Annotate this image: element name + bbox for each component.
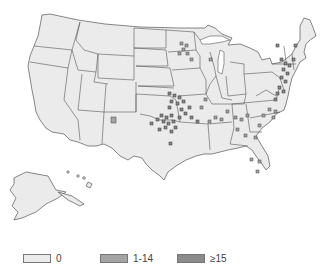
legend-item-15plus: ≥15 [177, 253, 227, 264]
legend-swatch-15plus [177, 254, 205, 263]
hawaii [67, 171, 92, 188]
alaska-panhandle [58, 192, 84, 206]
legend-swatch-0 [23, 254, 51, 263]
alaska [10, 172, 66, 220]
legend-item-0: 0 [23, 253, 62, 264]
legend-label-15plus: ≥15 [210, 253, 227, 264]
us-county-map [0, 0, 326, 240]
legend-swatch-1-14 [100, 254, 128, 263]
legend-label-0: 0 [56, 253, 62, 264]
legend-item-1-14: 1-14 [100, 253, 153, 264]
legend: 0 1-14 ≥15 [0, 253, 326, 269]
legend-label-1-14: 1-14 [133, 253, 153, 264]
